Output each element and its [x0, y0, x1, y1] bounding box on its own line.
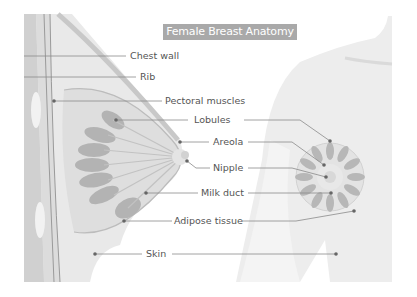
front-view-silhouette	[236, 16, 392, 282]
diagram-title: Female Breast Anatomy	[163, 24, 297, 40]
anatomy-illustration	[0, 0, 417, 297]
label-rib: Rib	[140, 71, 155, 83]
label-adipose-tissue: Adipose tissue	[174, 215, 243, 227]
label-lobules: Lobules	[194, 114, 230, 126]
label-chest-wall: Chest wall	[130, 50, 179, 62]
label-skin: Skin	[146, 248, 166, 260]
breast-anatomy-diagram: Female Breast Anatomy Chest wall Rib Pec…	[0, 0, 417, 297]
label-milk-duct: Milk duct	[201, 187, 244, 199]
label-nipple: Nipple	[213, 162, 243, 174]
label-pectoral-muscles: Pectoral muscles	[165, 95, 245, 107]
label-areola: Areola	[213, 136, 243, 148]
